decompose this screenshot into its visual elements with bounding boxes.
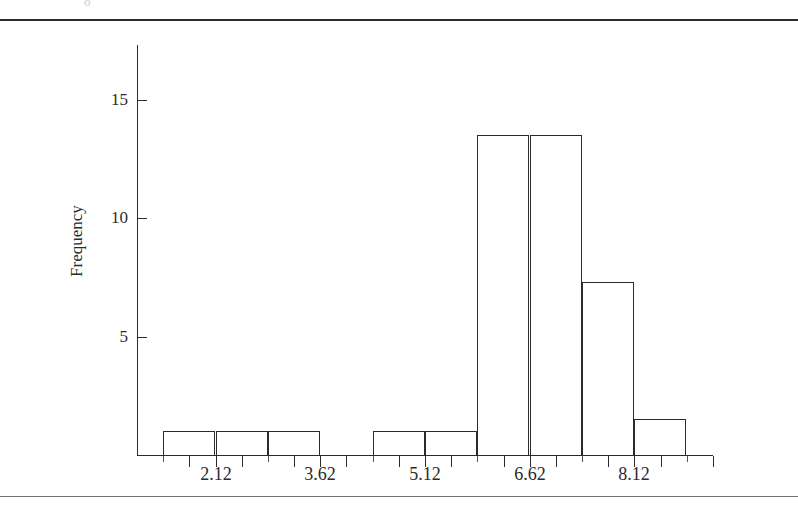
histogram-bar bbox=[373, 431, 425, 455]
y-tick-label: 5 bbox=[88, 328, 128, 345]
x-tick-label: 2.12 bbox=[176, 464, 256, 484]
y-tick-mark bbox=[138, 337, 147, 338]
x-tick-label: 8.12 bbox=[594, 464, 674, 484]
x-minor-tick-mark bbox=[373, 456, 374, 462]
y-tick-mark bbox=[138, 218, 147, 219]
y-tick-label: 10 bbox=[88, 209, 128, 226]
x-tick-label: 5.12 bbox=[385, 464, 465, 484]
histogram-plot-area: Frequency 51015 2.123.625.126.628.12 bbox=[0, 20, 798, 496]
histogram-bar bbox=[425, 431, 477, 455]
y-axis-title: Frequency bbox=[68, 151, 86, 331]
bottom-divider-rule bbox=[0, 496, 798, 497]
histogram-bar bbox=[634, 419, 686, 455]
x-minor-tick-mark bbox=[163, 456, 164, 462]
y-tick-mark bbox=[138, 100, 147, 101]
histogram-bar bbox=[582, 282, 634, 455]
x-minor-tick-mark bbox=[268, 456, 269, 462]
histogram-bar bbox=[216, 431, 268, 455]
histogram-figure-page: o Frequency 51015 2.123.625.126.628.12 bbox=[0, 0, 798, 508]
scan-artifact-glyph: o bbox=[84, 0, 91, 10]
histogram-bar bbox=[268, 431, 320, 455]
x-major-tick-mark bbox=[713, 456, 714, 467]
y-tick-label: 15 bbox=[88, 91, 128, 108]
x-minor-tick-mark bbox=[687, 456, 688, 462]
x-tick-label: 6.62 bbox=[490, 464, 570, 484]
x-tick-label: 3.62 bbox=[280, 464, 360, 484]
x-minor-tick-mark bbox=[477, 456, 478, 462]
x-minor-tick-mark bbox=[582, 456, 583, 462]
histogram-bar bbox=[163, 431, 215, 455]
histogram-bar bbox=[530, 135, 582, 455]
y-axis-line bbox=[137, 45, 138, 456]
histogram-bar bbox=[477, 135, 529, 455]
